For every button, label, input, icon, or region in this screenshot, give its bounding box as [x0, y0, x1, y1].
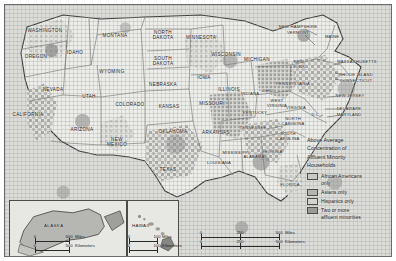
hi-km-tick-0: 0	[128, 243, 130, 248]
map-frame: WASHINGTONOREGONIDAHOMONTANAWYOMINGNEVAD…	[4, 4, 392, 257]
legend-title-line: Affluent Minority	[307, 153, 392, 161]
legend-swatch	[307, 198, 318, 205]
legend-item: African Americansonly	[307, 173, 392, 188]
legend-item-label: Asians only	[321, 189, 347, 196]
hawaii-label: HAWAII	[132, 223, 150, 228]
main-mi-tick-2: 500	[276, 230, 283, 235]
legend-item-label: African Americansonly	[321, 173, 362, 188]
main-mi-tick-1: 250	[237, 230, 244, 235]
legend-swatch	[307, 207, 318, 214]
legend-title: Above AverageConcentration ofAffluent Mi…	[307, 136, 392, 170]
legend-title-line: Households	[307, 161, 392, 169]
hi-km-unit: Kilometers	[162, 243, 182, 248]
alaska-scale-bar: 0 500 Miles 0 500 Kilometers	[35, 237, 95, 255]
main-km-tick-0: 0	[200, 239, 202, 244]
legend-swatch	[307, 173, 318, 180]
hi-km-tick-1: 100	[154, 243, 161, 248]
hi-mi-tick-0: 0	[128, 234, 130, 239]
main-km-tick-1: 250	[237, 239, 244, 244]
hawaii-scale-bar: 0 100 Miles 0 100 Kilometers	[129, 237, 177, 255]
ak-mi-tick-1: 500	[66, 234, 73, 239]
ak-mi-tick-0: 0	[34, 234, 36, 239]
main-km-tick-2: 500	[276, 239, 283, 244]
legend-title-line: Concentration of	[307, 144, 392, 152]
main-mi-unit: Miles	[285, 230, 295, 235]
main-mi-tick-0: 0	[200, 230, 202, 235]
ak-km-tick-1: 500	[66, 243, 73, 248]
legend-item: Two or moreaffluent minorities	[307, 207, 392, 222]
ak-mi-unit: Miles	[75, 234, 85, 239]
legend-swatch	[307, 189, 318, 196]
legend-item: Asians only	[307, 189, 392, 196]
legend-item-list: African AmericansonlyAsians onlyHispanic…	[307, 173, 392, 222]
legend-item-label: Two or moreaffluent minorities	[321, 207, 361, 222]
hi-mi-unit: Miles	[162, 234, 172, 239]
legend-item: Hispanics only	[307, 198, 392, 205]
map-legend: Above AverageConcentration ofAffluent Mi…	[307, 136, 392, 223]
main-km-unit: Kilometers	[285, 239, 305, 244]
main-scale-bar: 0 250 500 Miles 0 250 500 Kilometers	[201, 233, 297, 251]
alaska-label: ALASKA	[44, 223, 64, 228]
legend-title-line: Above Average	[307, 136, 392, 144]
legend-item-label: Hispanics only	[321, 198, 354, 205]
ak-km-unit: Kilometers	[75, 243, 95, 248]
hi-mi-tick-1: 100	[154, 234, 161, 239]
ak-km-tick-0: 0	[34, 243, 36, 248]
affluent-minority-households-map: WASHINGTONOREGONIDAHOMONTANAWYOMINGNEVAD…	[0, 0, 396, 261]
